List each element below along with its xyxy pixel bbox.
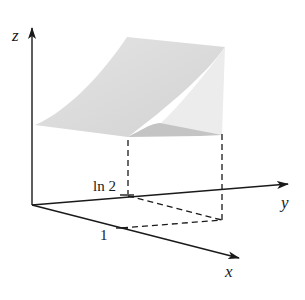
y-axis	[32, 184, 288, 205]
x-axis	[32, 205, 239, 258]
y-axis-label: y	[279, 193, 289, 212]
x-tick-label: 1	[100, 227, 108, 243]
dashed-projection-lines	[122, 134, 222, 228]
surface-diagram: z y x ln 2 1	[0, 0, 305, 300]
y-tick-label: ln 2	[93, 178, 116, 194]
x-axis-label: x	[224, 262, 233, 281]
z-axis-label: z	[11, 26, 19, 45]
